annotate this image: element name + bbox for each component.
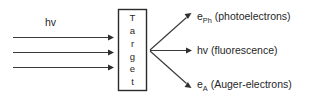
target-letter-4: e	[130, 64, 135, 74]
target-letter-0: T	[130, 13, 136, 23]
target-letter-2: r	[131, 39, 134, 49]
target-box-label: T a r g e t	[119, 10, 146, 90]
incoming-beam-arrows	[13, 35, 114, 71]
incoming-arrow-1	[13, 35, 114, 41]
auger-subscript: A	[203, 84, 208, 93]
incoming-arrow-2	[13, 50, 114, 56]
outgoing-arrow-auger	[150, 51, 192, 88]
outgoing-arrows	[150, 13, 192, 88]
fluorescence-symbol: hv	[197, 44, 208, 56]
incoming-photon-label: hv	[45, 17, 56, 28]
output-label-photoelectrons: ePh (photoelectrons)	[197, 11, 291, 22]
outgoing-arrow-fluorescence	[150, 48, 192, 54]
target-letter-3: g	[130, 52, 135, 62]
fluorescence-name: (fluorescence)	[211, 44, 278, 56]
incoming-arrow-3	[13, 65, 114, 71]
target-letter-5: t	[131, 77, 134, 87]
target-letter-1: a	[130, 26, 135, 36]
photoelectron-subscript: Ph	[203, 16, 212, 25]
auger-name: (Auger-electrons)	[211, 78, 292, 90]
physics-diagram: hv T a r g e t ePh (photoelectrons) hv (…	[0, 0, 314, 102]
output-label-auger: eA (Auger-electrons)	[197, 79, 292, 90]
output-label-fluorescence: hv (fluorescence)	[197, 45, 278, 56]
outgoing-arrow-photoelectrons	[150, 13, 192, 50]
photoelectron-name: (photoelectrons)	[215, 10, 291, 22]
